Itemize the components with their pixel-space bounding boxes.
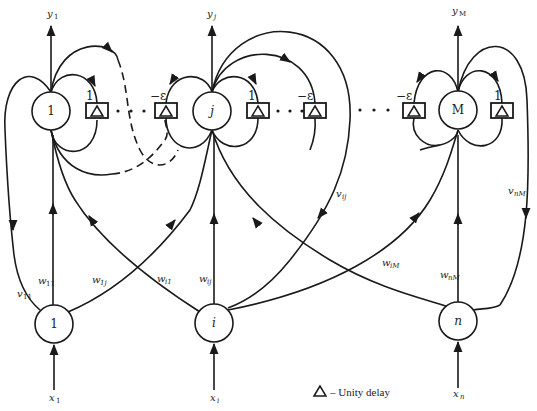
svg-text:−ε: −ε — [150, 89, 166, 103]
legend-unity-delay: – Unity delay — [314, 386, 390, 398]
svg-text:M: M — [452, 103, 464, 117]
svg-text:i1: i1 — [165, 278, 172, 286]
nodeM-feedback — [413, 46, 528, 305]
svg-text:1: 1 — [248, 89, 256, 103]
svg-text:−ε: −ε — [297, 89, 313, 103]
output-node-j: j — [193, 92, 231, 130]
svg-text:j: j — [212, 13, 217, 21]
dots-right — [358, 108, 389, 111]
label-vij: v ij — [336, 188, 347, 201]
input-node-i: i — [195, 304, 233, 342]
dots-left — [116, 109, 145, 112]
delay-box-node1-self: 1 — [86, 89, 108, 118]
svg-text:1: 1 — [47, 104, 55, 118]
svg-text:x: x — [210, 392, 216, 403]
label-xn: x n — [453, 388, 465, 401]
svg-text:x: x — [453, 388, 459, 399]
edge-vij-to-i — [228, 260, 290, 308]
output-node-1: 1 — [32, 92, 70, 130]
svg-text:n: n — [454, 314, 462, 328]
delay-box-nodej-self: 1 — [247, 89, 269, 118]
svg-text:y: y — [46, 8, 53, 19]
svg-text:1: 1 — [494, 89, 502, 103]
svg-text:ij: ij — [342, 193, 347, 201]
edge-i-to-j-right — [212, 130, 455, 309]
input-node-1: 1 — [35, 305, 73, 343]
label-yj: y j — [206, 8, 217, 21]
svg-text:i: i — [212, 316, 216, 330]
label-wiM: w iM — [382, 257, 400, 270]
svg-text:M: M — [459, 10, 466, 18]
svg-text:1: 1 — [50, 317, 58, 331]
svg-text:1: 1 — [56, 397, 60, 405]
svg-text:i: i — [217, 397, 219, 405]
label-wij: w ij — [199, 273, 212, 286]
dots-middle — [276, 109, 303, 112]
svg-text:1: 1 — [86, 89, 94, 103]
edge-wiM — [228, 130, 458, 310]
svg-text:y: y — [451, 5, 458, 16]
label-vnM: v nM — [508, 185, 527, 198]
delay-box-lateral-M: −ε — [396, 89, 425, 118]
svg-text:n: n — [460, 393, 465, 401]
label-yM: y M — [451, 5, 466, 18]
nodej-feedback — [166, 32, 350, 260]
svg-text:iM: iM — [390, 262, 400, 270]
edge-vnM — [474, 305, 500, 310]
network-diagram: 1 −ε 1 — [0, 0, 537, 411]
svg-text:1j: 1j — [100, 279, 107, 287]
label-y1: y 1 — [46, 8, 58, 21]
delay-box-nodeM-self: 1 — [491, 89, 513, 118]
delay-box-lateral-1: −ε — [150, 89, 177, 118]
edge-wi1 — [51, 130, 200, 312]
output-node-M: M — [439, 91, 477, 129]
svg-text:y: y — [206, 8, 213, 19]
svg-text:x: x — [49, 392, 55, 403]
svg-text:nM: nM — [514, 190, 527, 198]
svg-text:nM: nM — [448, 274, 461, 282]
svg-text:11: 11 — [23, 293, 32, 301]
label-x1: x 1 — [49, 392, 60, 405]
svg-text:11: 11 — [46, 280, 55, 288]
label-xi: x i — [210, 392, 219, 405]
delay-box-lateral-j: −ε — [297, 89, 326, 118]
input-node-n: n — [439, 302, 477, 340]
svg-text:1: 1 — [54, 13, 58, 21]
delta-icon — [314, 386, 326, 396]
svg-text:– Unity delay: – Unity delay — [329, 386, 390, 398]
node1-feedback — [5, 46, 178, 255]
label-w1j: w 1j — [92, 274, 107, 287]
svg-text:ij: ij — [207, 278, 212, 286]
svg-text:−ε: −ε — [396, 89, 412, 103]
